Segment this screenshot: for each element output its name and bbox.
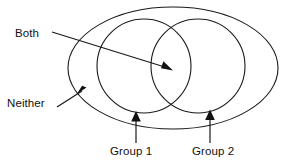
both-arrow-head-icon	[161, 61, 173, 70]
label-neither: Neither	[7, 97, 45, 110]
label-both: Both	[15, 27, 39, 40]
label-group-2: Group 2	[192, 145, 234, 158]
group-2-arrow-head-icon	[205, 110, 215, 121]
label-group-1: Group 1	[110, 145, 152, 158]
both-leader-line	[52, 32, 168, 68]
group-1-circle	[97, 19, 191, 113]
universe-ellipse	[68, 7, 278, 129]
venn-diagram: Both Neither Group 1 Group 2	[0, 0, 291, 166]
venn-diagram-canvas	[0, 0, 291, 166]
neither-arrow-head-icon	[77, 86, 87, 95]
neither-leader-line	[57, 91, 82, 107]
